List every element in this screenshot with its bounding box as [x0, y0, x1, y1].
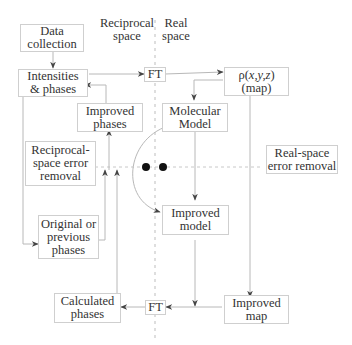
calculated-phases-box: Calculated phases: [54, 293, 121, 323]
improved-phases-box: Improved phases: [77, 103, 143, 132]
molecular-model-box: Molecular Model: [162, 103, 228, 132]
dot-reciprocal: [142, 163, 150, 171]
improved-model-box: Improved model: [162, 205, 229, 235]
rho-map-line2: (map): [242, 82, 272, 95]
reciprocal-space-header: Reciprocal space: [92, 17, 162, 43]
crystallography-refinement-diagram: Reciprocal space Real space Data collect…: [0, 0, 352, 345]
intensities-phases-box: Intensities & phases: [18, 69, 88, 97]
ft-bottom-box: FT: [145, 300, 166, 315]
improved-map-box: Improved map: [224, 295, 289, 324]
rho-map-line1: ρ(x,y,z): [238, 69, 274, 82]
rho-map-box: ρ(x,y,z) (map): [224, 67, 289, 96]
real-error-removal-box: Real-space error removal: [266, 145, 338, 174]
real-space-header: Real space: [154, 17, 198, 43]
dot-real: [159, 163, 167, 171]
ft-top-box: FT: [144, 67, 166, 82]
data-collection-box: Data collection: [20, 24, 84, 52]
reciprocal-error-removal-box: Reciprocal- space error removal: [25, 141, 96, 186]
original-previous-phases-box: Original or previous phases: [38, 215, 99, 259]
